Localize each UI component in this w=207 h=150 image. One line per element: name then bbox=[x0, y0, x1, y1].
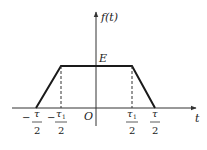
svg-text:−: − bbox=[47, 112, 55, 123]
svg-text:1: 1 bbox=[133, 113, 137, 120]
tick-label-neg-tau-half: − τ 2 bbox=[22, 108, 42, 136]
x-axis-label: t bbox=[195, 112, 200, 125]
svg-text:2: 2 bbox=[129, 125, 135, 136]
svg-text:τ: τ bbox=[34, 108, 40, 119]
svg-text:2: 2 bbox=[34, 125, 40, 136]
svg-text:1: 1 bbox=[62, 113, 66, 120]
tick-label-tau1-half: τ 1 2 bbox=[126, 108, 138, 136]
origin-label: O bbox=[84, 110, 93, 123]
trapezoid-pulse-diagram: f(t) t O E − τ 2 − τ 1 2 τ 1 2 τ 2 bbox=[0, 0, 207, 150]
svg-text:2: 2 bbox=[152, 125, 158, 136]
svg-text:−: − bbox=[22, 112, 30, 123]
amplitude-label: E bbox=[98, 52, 107, 65]
tick-label-neg-tau1-half: − τ 1 2 bbox=[47, 108, 67, 136]
svg-text:τ: τ bbox=[152, 108, 158, 119]
svg-text:2: 2 bbox=[58, 125, 64, 136]
tick-label-tau-half: τ 2 bbox=[150, 108, 160, 136]
y-axis-label: f(t) bbox=[100, 11, 118, 24]
